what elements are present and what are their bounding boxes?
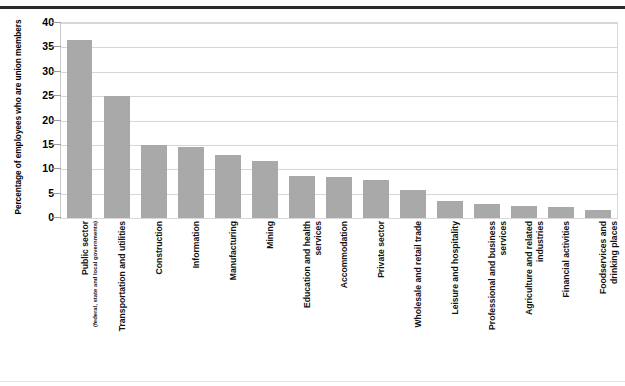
x-label-slot: Public sector(federal, state and local g…	[61, 221, 98, 381]
x-label-rotated: Foodservices anddrinking places	[598, 221, 619, 294]
x-label-slot: Manufacturing	[209, 221, 246, 381]
y-tick-mark	[52, 217, 61, 218]
x-label-rotated: Transportation and utilities	[117, 221, 128, 331]
bar	[437, 201, 463, 218]
x-label-rotated: Construction	[154, 221, 165, 274]
x-label-line: Transportation and utilities	[117, 221, 128, 331]
y-tick-mark	[52, 95, 61, 96]
bar	[289, 176, 315, 218]
x-label-line: Mining	[265, 221, 276, 249]
y-tick-label: 10	[30, 162, 54, 174]
x-label-slot: Construction	[135, 221, 172, 381]
y-tick-label: 25	[30, 89, 54, 101]
x-label-slot: Wholesale and retail trade	[395, 221, 432, 381]
y-tick-label: 20	[30, 114, 54, 126]
x-label-slot: Mining	[246, 221, 283, 381]
x-label-line: Wholesale and retail trade	[413, 221, 424, 328]
y-tick-label: 0	[30, 211, 54, 223]
x-label-line: Leisure and hospitality	[450, 221, 461, 315]
y-tick-mark	[52, 71, 61, 72]
y-tick-mark	[52, 193, 61, 194]
bar	[215, 155, 241, 218]
x-label-rotated: Public sector(federal, state and local g…	[80, 221, 99, 327]
x-label-slot: Education and healthservices	[283, 221, 320, 381]
y-tick-mark	[52, 46, 61, 47]
y-tick-mark	[52, 168, 61, 169]
x-label-slot: Private sector	[358, 221, 395, 381]
x-label-rotated: Leisure and hospitality	[450, 221, 461, 315]
x-label-line: Accommodation	[339, 221, 350, 288]
x-label-slot: Financial activities	[543, 221, 580, 381]
x-label-slot: Leisure and hospitality	[432, 221, 469, 381]
y-axis-tick-labels: 0510152025303540	[30, 14, 54, 226]
chart-figure: Percentage of employees who are union me…	[0, 0, 625, 386]
x-label-line: Public sector	[80, 221, 91, 327]
x-label-slot: Agriculture and relatedindustries	[506, 221, 543, 381]
bottom-divider-rule	[0, 381, 625, 382]
x-label-slot: Professional and businessservices	[469, 221, 506, 381]
bar	[548, 207, 574, 218]
bar	[363, 180, 389, 219]
x-label-line: Professional and business	[487, 221, 498, 330]
x-label-line: Manufacturing	[228, 221, 239, 280]
bar	[585, 210, 611, 218]
bar	[178, 147, 204, 218]
y-tick-label: 30	[30, 65, 54, 77]
x-label-sublabel: (federal, state and local governments)	[90, 221, 98, 327]
x-label-slot: Information	[172, 221, 209, 381]
x-label-rotated: Manufacturing	[228, 221, 239, 280]
y-tick-label: 15	[30, 138, 54, 150]
x-label-rotated: Financial activities	[561, 221, 572, 297]
bar	[400, 190, 426, 218]
bar	[141, 145, 167, 218]
x-label-line: Financial activities	[561, 221, 572, 297]
y-tick-label: 40	[30, 16, 54, 28]
x-label-rotated: Wholesale and retail trade	[413, 221, 424, 328]
x-label-rotated: Accommodation	[339, 221, 350, 288]
bar	[326, 177, 352, 218]
x-label-line: Private sector	[376, 221, 387, 278]
x-label-line: Information	[191, 221, 202, 268]
x-axis-category-labels: Public sector(federal, state and local g…	[61, 221, 617, 381]
x-label-line: drinking places	[609, 221, 620, 294]
y-tick-mark	[52, 120, 61, 121]
bar	[104, 96, 130, 218]
bar	[67, 40, 93, 218]
bar	[511, 206, 537, 218]
y-tick-label: 35	[30, 40, 54, 52]
x-label-line: Construction	[154, 221, 165, 274]
y-tick-mark	[52, 144, 61, 145]
x-label-rotated: Mining	[265, 221, 276, 249]
x-label-slot: Foodservices anddrinking places	[580, 221, 617, 381]
x-label-rotated: Information	[191, 221, 202, 268]
y-tick-mark	[52, 22, 61, 23]
x-label-line: Foodservices and	[598, 221, 609, 294]
bar-series	[61, 23, 617, 218]
x-label-slot: Accommodation	[320, 221, 357, 381]
x-label-slot: Transportation and utilities	[98, 221, 135, 381]
bar	[252, 161, 278, 218]
x-label-line: Education and health	[302, 221, 313, 308]
x-label-rotated: Private sector	[376, 221, 387, 278]
y-tick-label: 5	[30, 187, 54, 199]
y-axis-title: Percentage of employees who are union me…	[13, 7, 23, 227]
x-label-line: Agriculture and related	[524, 221, 535, 315]
top-divider-rule	[0, 6, 625, 9]
bar	[474, 204, 500, 218]
